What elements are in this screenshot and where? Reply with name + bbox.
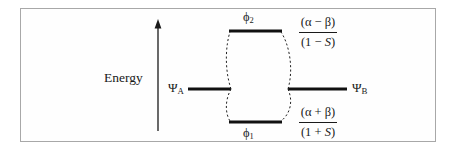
- phi1-symbol: ϕ: [243, 126, 250, 140]
- phi1-subscript: 1: [250, 131, 254, 141]
- bonding-denominator-open: (1 +: [301, 125, 325, 139]
- figure-canvas: Energy ΨA ΨB ϕ2 ϕ1 (α − β) (1 − S) (α + …: [0, 0, 453, 154]
- bonding-numerator: (α + β): [299, 104, 338, 123]
- bonding-energy-expression: (α + β) (1 + S): [281, 104, 355, 142]
- psi-b-subscript: B: [362, 86, 368, 96]
- phi2-symbol: ϕ: [243, 10, 250, 24]
- diagram-vector-layer: [0, 0, 453, 154]
- energy-axis-label: Energy: [104, 71, 143, 85]
- bonding-denominator: (1 + S): [299, 123, 337, 141]
- phi1-label: ϕ1: [243, 127, 254, 140]
- phi2-label: ϕ2: [243, 11, 254, 24]
- antibonding-denominator: (1 − S): [299, 33, 337, 51]
- psi-b-label: ΨB: [352, 81, 367, 96]
- antibonding-numerator: (α − β): [299, 14, 338, 33]
- correlation-curve-a-to-phi2: [226, 32, 231, 89]
- phi2-subscript: 2: [250, 15, 254, 25]
- antibonding-denominator-open: (1 −: [301, 35, 325, 49]
- energy-axis-arrow: [155, 19, 162, 131]
- antibonding-denominator-close: ): [331, 35, 335, 49]
- psi-a-symbol: Ψ: [168, 80, 178, 95]
- correlation-curve-a-to-phi1: [226, 89, 231, 121]
- psi-a-subscript: A: [178, 86, 184, 96]
- psi-b-symbol: Ψ: [352, 80, 362, 95]
- bonding-denominator-close: ): [331, 125, 335, 139]
- antibonding-energy-expression: (α − β) (1 − S): [281, 14, 355, 52]
- psi-a-label: ΨA: [168, 81, 184, 96]
